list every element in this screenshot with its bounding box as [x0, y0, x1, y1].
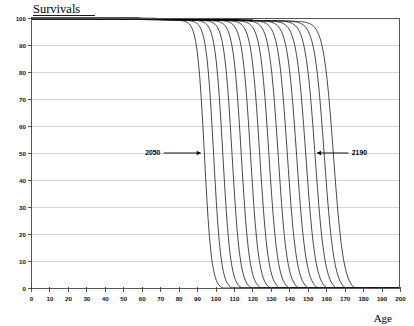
- x-tick-label: 40: [102, 295, 109, 302]
- x-tick-label: 10: [47, 295, 54, 302]
- chart-background: [0, 0, 414, 326]
- y-tick-label: 100: [16, 15, 27, 22]
- x-axis-tick-labels: 0102030405060708090100110120130140150160…: [30, 295, 406, 302]
- x-tick-label: 50: [120, 295, 127, 302]
- y-tick-label: 10: [19, 258, 26, 265]
- x-tick-label: 140: [285, 295, 296, 302]
- annotation-label-2050: 2050: [145, 149, 160, 156]
- chart-canvas: 0102030405060708090100 01020304050607080…: [0, 0, 414, 326]
- x-tick-label: 130: [266, 295, 277, 302]
- y-tick-label: 40: [19, 177, 26, 184]
- x-tick-label: 90: [194, 295, 201, 302]
- y-tick-label: 50: [19, 150, 26, 157]
- x-tick-label: 80: [176, 295, 183, 302]
- y-tick-label: 60: [19, 123, 26, 130]
- y-tick-label: 0: [23, 285, 27, 292]
- survival-curves-figure: 0102030405060708090100 01020304050607080…: [0, 0, 414, 326]
- x-tick-label: 0: [30, 295, 34, 302]
- y-tick-label: 30: [19, 204, 26, 211]
- x-tick-label: 160: [322, 295, 333, 302]
- x-tick-label: 100: [211, 295, 222, 302]
- y-tick-label: 90: [19, 42, 26, 49]
- x-axis-title: Age: [374, 312, 392, 324]
- x-tick-label: 180: [358, 295, 369, 302]
- x-tick-label: 150: [303, 295, 314, 302]
- x-tick-label: 30: [83, 295, 90, 302]
- x-tick-label: 200: [395, 295, 406, 302]
- chart-title: Survivals: [33, 2, 80, 16]
- x-tick-label: 120: [248, 295, 259, 302]
- y-tick-label: 80: [19, 69, 26, 76]
- x-tick-label: 60: [139, 295, 146, 302]
- y-tick-label: 70: [19, 96, 26, 103]
- x-tick-label: 20: [65, 295, 72, 302]
- y-tick-label: 20: [19, 231, 26, 238]
- x-tick-label: 70: [157, 295, 164, 302]
- x-tick-label: 170: [340, 295, 351, 302]
- x-tick-label: 110: [229, 295, 240, 302]
- annotation-label-2190: 2190: [352, 149, 367, 156]
- x-tick-label: 190: [377, 295, 388, 302]
